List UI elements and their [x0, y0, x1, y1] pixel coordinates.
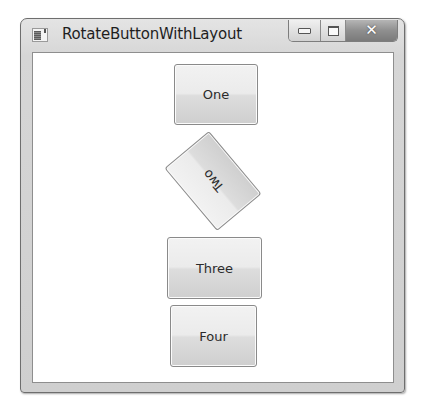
- client-area: One Two Three Four: [32, 52, 394, 383]
- close-button[interactable]: ✕: [346, 20, 397, 41]
- app-window-icon[interactable]: [32, 28, 48, 42]
- minimize-button[interactable]: [289, 20, 321, 41]
- maximize-button[interactable]: [321, 20, 346, 41]
- window-title: RotateButtonWithLayout: [62, 25, 242, 43]
- button-one-label: One: [203, 87, 229, 102]
- button-four-label: Four: [199, 329, 228, 344]
- caption-buttons: ✕: [288, 20, 398, 42]
- button-four[interactable]: Four: [170, 305, 257, 367]
- button-one[interactable]: One: [174, 64, 258, 125]
- button-three-label: Three: [196, 261, 233, 276]
- title-bar[interactable]: RotateButtonWithLayout ✕: [21, 19, 404, 52]
- app-window: RotateButtonWithLayout ✕ One Two Three F…: [20, 18, 405, 393]
- button-two[interactable]: Two: [164, 131, 261, 231]
- minimize-icon: [298, 28, 311, 34]
- maximize-icon: [328, 26, 339, 36]
- app-icon-mark: [44, 29, 46, 33]
- button-two-label: Two: [199, 167, 226, 195]
- app-icon-fill: [34, 31, 41, 40]
- button-three[interactable]: Three: [167, 237, 262, 299]
- close-icon: ✕: [365, 23, 378, 38]
